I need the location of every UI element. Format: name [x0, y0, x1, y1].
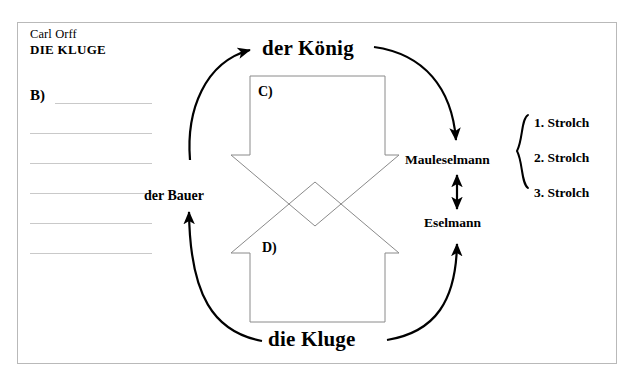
answer-line[interactable]	[30, 223, 152, 224]
strolch-item-2: 2. Strolch	[534, 150, 589, 166]
node-label-eselmann: Eselmann	[424, 215, 481, 231]
answer-section-label: B)	[30, 87, 45, 104]
answer-line[interactable]	[30, 163, 152, 164]
node-label-kluge: die Kluge	[268, 327, 356, 352]
answer-line[interactable]	[30, 193, 152, 194]
inner-letter-d: D)	[262, 240, 277, 256]
strolch-item-3: 3. Strolch	[534, 185, 589, 201]
composer-name: Carl Orff	[30, 27, 106, 42]
answer-line[interactable]	[30, 253, 152, 254]
node-label-koenig: der König	[262, 36, 354, 61]
node-label-mauleselmann: Mauleselmann	[405, 152, 490, 168]
node-label-bauer: der Bauer	[144, 188, 204, 204]
work-title: DIE KLUGE	[30, 42, 106, 57]
strolch-item-1: 1. Strolch	[534, 115, 589, 131]
answer-line[interactable]	[30, 133, 152, 134]
header-block: Carl Orff DIE KLUGE	[30, 27, 106, 57]
inner-letter-c: C)	[258, 84, 273, 100]
answer-line[interactable]	[55, 103, 152, 104]
